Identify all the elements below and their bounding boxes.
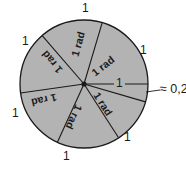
radian-circle-diagram (0, 0, 186, 169)
arc-label-upper-left: 1 (22, 35, 29, 47)
arc-label-top: 1 (82, 2, 89, 14)
arc-label-lower-right: 1 (124, 131, 131, 143)
radian-circle-figure: 1 rad 1 rad 1 rad 1 rad 1 rad 1 rad 1 1 … (0, 0, 186, 169)
center-point (81, 81, 86, 86)
arc-label-bottom: 1 (63, 150, 70, 162)
arc-label-upper-right: 1 (140, 44, 147, 56)
radius-label: 1 (114, 77, 125, 89)
arc-label-lower-left: 1 (12, 107, 19, 119)
remainder-annotation: ≈ 0,28 (160, 83, 186, 96)
